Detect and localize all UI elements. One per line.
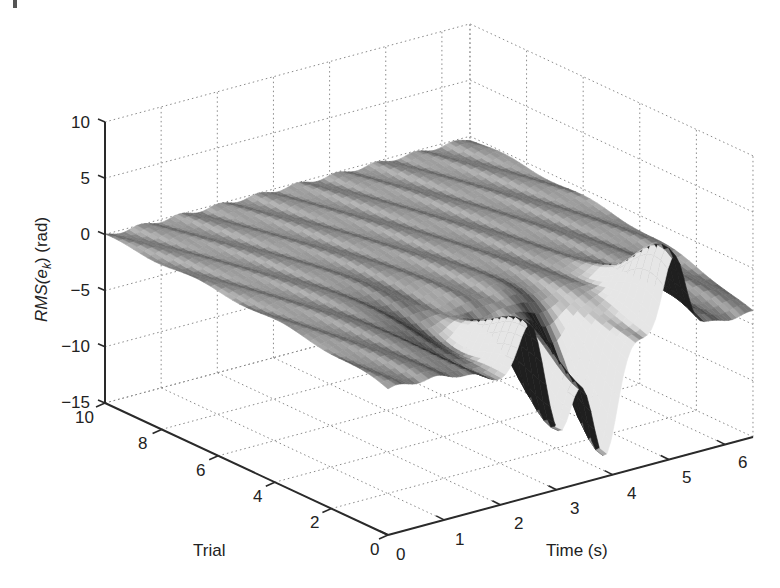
tick-mark	[322, 509, 331, 513]
time-tick-label: 5	[682, 468, 691, 487]
grid-line	[105, 24, 470, 122]
surface-mesh	[105, 140, 753, 455]
z-axis-label-suffix: ) (rad)	[32, 217, 51, 263]
z-axis-label: RMS(ek) (rad)	[32, 217, 54, 322]
tick-mark	[379, 535, 388, 539]
tick-mark	[98, 231, 105, 234]
trial-tick-label: 0	[370, 540, 379, 559]
tick-mark	[380, 531, 388, 535]
trial-tick-label: 10	[75, 408, 94, 427]
trial-axis-line	[105, 403, 388, 535]
tick-mark	[98, 288, 105, 291]
tick-mark	[661, 456, 669, 460]
tick-mark	[96, 403, 105, 407]
trial-tick-labels: 0 2 4 6 8 10	[75, 408, 379, 559]
tick-mark	[98, 400, 105, 403]
trial-tick-label: 8	[138, 434, 147, 453]
tick-mark	[153, 429, 162, 433]
time-tick-label: 2	[514, 514, 523, 533]
trial-tick-label: 2	[310, 513, 319, 532]
tick-mark	[717, 440, 725, 444]
tick-mark	[548, 486, 556, 490]
tick-mark	[492, 501, 500, 505]
grid-line	[470, 24, 753, 156]
time-axis-line	[388, 437, 753, 535]
z-tick-label: −10	[61, 337, 90, 356]
time-tick-label: 0	[396, 545, 405, 564]
trial-tick-label: 4	[253, 487, 262, 506]
tick-mark	[98, 344, 105, 347]
grid-line	[217, 373, 500, 505]
time-tick-label: 4	[627, 484, 636, 503]
tick-mark	[266, 482, 275, 486]
trial-tick-label: 6	[196, 461, 205, 480]
z-tick-label: 10	[71, 113, 90, 132]
z-tick-label: −5	[71, 281, 90, 300]
time-tick-label: 1	[455, 530, 464, 549]
grid-line	[161, 388, 444, 520]
z-tick-labels: 10 5 0 −5 −10 −15	[61, 113, 90, 412]
z-tick-label: 5	[81, 169, 90, 188]
z-tick-label: 0	[81, 225, 90, 244]
surface-plot: 10 5 0 −5 −10 −15 0 2 4 6 8 10 0 1 2 3 4…	[0, 0, 780, 588]
tick-mark	[98, 175, 105, 178]
tick-mark	[605, 471, 613, 475]
tick-mark	[436, 516, 444, 520]
time-tick-label: 6	[738, 453, 747, 472]
tick-mark	[209, 456, 218, 460]
trial-axis-label: Trial	[193, 541, 225, 560]
grid-line	[331, 410, 696, 508]
tick-mark	[98, 119, 105, 122]
time-axis-label: Time (s)	[546, 541, 608, 560]
z-axis-label-prefix: RMS(e	[32, 269, 51, 322]
time-tick-label: 3	[570, 499, 579, 518]
